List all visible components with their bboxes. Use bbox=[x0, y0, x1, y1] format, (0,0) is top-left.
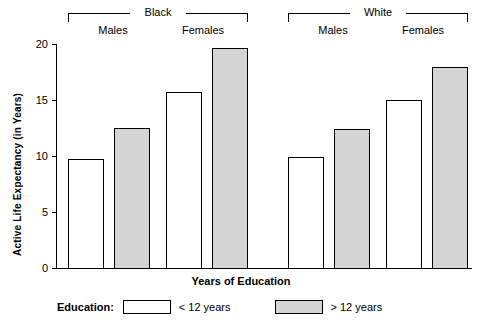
subgroup-label-black-males: Males bbox=[68, 23, 158, 37]
y-axis-title: Active Life Expectancy (in Years) bbox=[12, 93, 23, 256]
y-tick-20 bbox=[52, 44, 57, 45]
group-label-black: Black bbox=[141, 5, 176, 19]
legend: Education: < 12 years > 12 years bbox=[57, 300, 382, 314]
bar-black-females-gt12 bbox=[212, 48, 248, 269]
group-header-white: White Males Females bbox=[288, 4, 468, 38]
bar-white-males-lt12 bbox=[288, 157, 324, 270]
legend-title: Education: bbox=[57, 301, 114, 313]
subgroup-label-black-females: Females bbox=[158, 23, 248, 37]
y-tick-label-0: 0 bbox=[18, 263, 48, 274]
bracket-segment-left bbox=[288, 13, 350, 14]
y-tick-label-10: 10 bbox=[18, 151, 48, 162]
bracket-tick-left bbox=[288, 13, 289, 22]
legend-swatch-dark bbox=[275, 300, 323, 314]
bar-black-males-gt12 bbox=[114, 128, 150, 269]
legend-label-lt12: < 12 years bbox=[179, 301, 231, 313]
bracket-segment-right bbox=[406, 13, 468, 14]
legend-swatch-light bbox=[123, 300, 171, 314]
subgroup-label-white-females: Females bbox=[378, 23, 468, 37]
bracket-segment-left bbox=[68, 13, 130, 14]
bar-chart: Black Males Females White Males Females … bbox=[0, 0, 482, 324]
bracket-tick-left bbox=[68, 13, 69, 22]
group-header-black: Black Males Females bbox=[68, 4, 248, 38]
bracket-tick-right bbox=[467, 13, 468, 22]
legend-item-gt12: > 12 years bbox=[275, 300, 383, 314]
y-tick-label-15: 15 bbox=[18, 95, 48, 106]
bracket-tick-right bbox=[247, 13, 248, 22]
legend-label-gt12: > 12 years bbox=[331, 301, 383, 313]
bar-black-males-lt12 bbox=[68, 159, 104, 269]
y-tick-5 bbox=[52, 212, 57, 213]
subgroup-label-white-males: Males bbox=[288, 23, 378, 37]
y-tick-label-20: 20 bbox=[18, 39, 48, 50]
y-tick-label-5: 5 bbox=[18, 207, 48, 218]
bar-white-males-gt12 bbox=[334, 129, 370, 269]
bar-white-females-gt12 bbox=[432, 67, 468, 269]
x-axis-title: Years of Education bbox=[0, 275, 482, 287]
group-label-white: White bbox=[360, 5, 396, 19]
bar-white-females-lt12 bbox=[386, 100, 422, 269]
bracket-segment-right bbox=[186, 13, 248, 14]
y-tick-10 bbox=[52, 156, 57, 157]
legend-item-lt12: < 12 years bbox=[123, 300, 231, 314]
bar-black-females-lt12 bbox=[166, 92, 202, 269]
y-tick-15 bbox=[52, 100, 57, 101]
